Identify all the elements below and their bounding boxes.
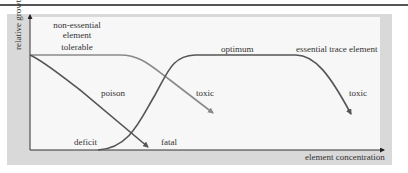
label-tolerable: tolerable [52,42,102,52]
label-poison: poison [101,88,125,98]
y-axis-label: relative growth [13,0,23,50]
label-element: element [52,30,102,40]
essential-curve [98,55,351,150]
label-fatal: fatal [161,137,177,147]
label-optimum: optimum [221,44,254,54]
label-deficit: deficit [74,137,97,147]
label-essential-trace-element: essential trace element [296,44,377,54]
label-toxic-essential: toxic [349,88,367,98]
x-axis-label: element concentration [305,152,385,162]
label-non-essential: non-essential [52,20,102,30]
label-toxic-nonessential: toxic [196,88,214,98]
non-essential-curve [30,55,213,113]
